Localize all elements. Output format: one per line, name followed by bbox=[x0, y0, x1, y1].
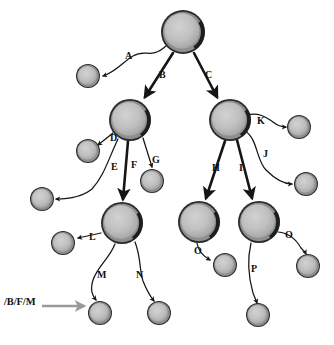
node-inner-fill bbox=[248, 305, 267, 324]
node-inner-fill bbox=[32, 189, 51, 208]
leaf-node-o-left[interactable] bbox=[213, 253, 237, 277]
edge-label-o1: O bbox=[194, 246, 202, 256]
path-annotation-label: /B/F/M bbox=[4, 296, 35, 307]
node-inner-fill bbox=[296, 174, 315, 193]
leaf-node-o-right[interactable] bbox=[296, 254, 320, 278]
edge-k-c-to-k_leaf bbox=[247, 114, 286, 127]
edge-label-i: I bbox=[239, 163, 243, 173]
leaf-node-a[interactable] bbox=[76, 64, 100, 88]
node-inner-fill bbox=[212, 102, 246, 136]
root-node[interactable] bbox=[161, 10, 205, 54]
node-inner-fill bbox=[90, 303, 109, 322]
internal-node-c[interactable] bbox=[209, 99, 251, 141]
edge-label-e: E bbox=[111, 162, 118, 172]
internal-node-i[interactable] bbox=[238, 201, 280, 243]
node-inner-fill bbox=[104, 205, 138, 239]
leaf-node-d[interactable] bbox=[76, 139, 100, 163]
edge-label-d: D bbox=[110, 133, 117, 143]
edge-label-h: H bbox=[212, 163, 220, 173]
leaf-node-k[interactable] bbox=[287, 115, 311, 139]
node-inner-fill bbox=[78, 141, 97, 160]
edge-g-b-to-g_leaf bbox=[143, 138, 152, 167]
edge-label-f: F bbox=[131, 160, 137, 170]
internal-node-h[interactable] bbox=[178, 201, 220, 243]
graph-svg bbox=[0, 0, 334, 345]
internal-node-f[interactable] bbox=[101, 202, 143, 244]
leaf-node-n[interactable] bbox=[147, 301, 171, 325]
edge-label-k: K bbox=[257, 116, 265, 126]
edge-label-c: C bbox=[205, 70, 212, 80]
edge-label-o2: O bbox=[285, 230, 293, 240]
leaf-node-p[interactable] bbox=[246, 303, 270, 327]
nodes-layer bbox=[30, 10, 320, 327]
node-inner-fill bbox=[241, 204, 275, 238]
edge-label-m: M bbox=[97, 270, 107, 280]
edge-label-g: G bbox=[152, 155, 160, 165]
node-inner-fill bbox=[112, 102, 146, 136]
leaf-node-e[interactable] bbox=[30, 187, 54, 211]
node-inner-fill bbox=[215, 255, 234, 274]
leaf-node-j[interactable] bbox=[294, 172, 318, 196]
node-inner-fill bbox=[298, 256, 317, 275]
node-inner-fill bbox=[142, 171, 161, 190]
node-inner-fill bbox=[164, 13, 199, 48]
edge-label-n: N bbox=[136, 270, 143, 280]
leaf-node-g[interactable] bbox=[140, 169, 164, 193]
diagram-canvas: ABCDEFGHIJKLMNOPO /B/F/M bbox=[0, 0, 334, 345]
edge-label-l: L bbox=[89, 232, 96, 242]
edge-f-b-to-f bbox=[123, 141, 128, 199]
edge-label-j: J bbox=[263, 149, 268, 159]
node-inner-fill bbox=[181, 204, 215, 238]
node-inner-fill bbox=[53, 233, 72, 252]
leaf-node-m[interactable] bbox=[88, 301, 112, 325]
node-inner-fill bbox=[78, 66, 97, 85]
node-inner-fill bbox=[149, 303, 168, 322]
edge-a-root-to-a_leaf bbox=[103, 46, 166, 76]
node-inner-fill bbox=[289, 117, 308, 136]
edge-j-c-to-j_leaf bbox=[245, 131, 292, 184]
edge-label-a: A bbox=[125, 51, 132, 61]
edge-label-p: P bbox=[251, 264, 257, 274]
leaf-node-l[interactable] bbox=[51, 231, 75, 255]
edge-label-b: B bbox=[159, 70, 166, 80]
